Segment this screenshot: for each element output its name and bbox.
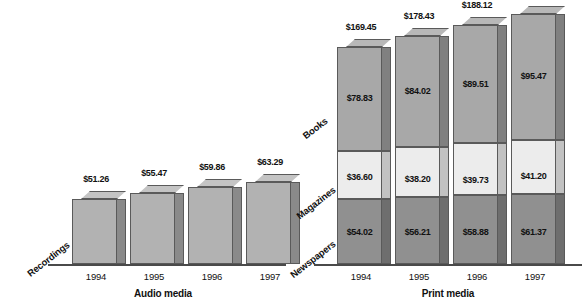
segment-value-newspapers-1996: $58.88: [453, 227, 498, 237]
bar-top-face: [346, 39, 391, 47]
bar-top-face: [520, 6, 565, 14]
series-label-recordings: Recordings: [17, 239, 71, 285]
bar-top-face: [197, 179, 242, 187]
tick-print-1995: 1995: [392, 271, 446, 282]
bar-value-label-1994: $51.26: [69, 174, 123, 184]
segment-value-books-1994: $78.83: [337, 93, 382, 103]
segment-value-magazines-1995: $38.20: [395, 174, 440, 184]
segment-magazines: [511, 140, 556, 194]
segment-magazines: [453, 143, 498, 195]
segment-side-books: [555, 14, 565, 140]
tick-audio-1996: 1996: [185, 271, 239, 282]
tick-print-1994: 1994: [334, 271, 388, 282]
segment-side-books: [381, 47, 391, 151]
audio-media-chart: Recordings $51.26 $55.47 $59.86 $63.29 1…: [0, 0, 300, 307]
bar-total-label-1995: $178.43: [392, 11, 446, 21]
segment-value-newspapers-1995: $56.21: [395, 227, 440, 237]
segment-side-books: [439, 36, 449, 147]
segment-side-newspapers: [555, 194, 565, 264]
segment-value-magazines-1994: $36.60: [337, 172, 382, 182]
bar-front-face: [188, 187, 233, 264]
segment-value-magazines-1996: $39.73: [453, 175, 498, 185]
segment-value-newspapers-1997: $61.37: [511, 227, 556, 237]
tick-audio-1994: 1994: [69, 271, 123, 282]
segment-side-newspapers: [439, 197, 449, 264]
bar-value-label-1996: $59.86: [185, 162, 239, 172]
bar-audio-1994: [72, 191, 126, 264]
bar-top-face: [404, 28, 449, 36]
segment-magazines: [395, 147, 440, 197]
segment-side-books: [497, 25, 507, 143]
series-label-books: Books: [283, 115, 329, 154]
segment-value-magazines-1997: $41.20: [511, 171, 556, 181]
segment-value-books-1995: $84.02: [395, 86, 440, 96]
bar-side-face: [232, 187, 242, 264]
bar-total-label-1996: $188.12: [450, 0, 504, 10]
segment-value-books-1996: $89.51: [453, 79, 498, 89]
bar-value-label-1995: $55.47: [127, 168, 181, 178]
tick-print-1996: 1996: [450, 271, 504, 282]
bar-print-1997: [511, 6, 565, 264]
segment-value-newspapers-1994: $54.02: [337, 227, 382, 237]
tick-audio-1995: 1995: [127, 271, 181, 282]
bar-top-face: [139, 185, 184, 193]
print-axis-title: Print media: [393, 288, 503, 299]
bar-front-face: [72, 199, 117, 264]
audio-axis-title: Audio media: [108, 288, 218, 299]
segment-value-books-1997: $95.47: [511, 71, 556, 81]
segment-side-newspapers: [381, 199, 391, 264]
bar-side-face: [174, 193, 184, 264]
bar-audio-1995: [130, 185, 184, 264]
segment-side-magazines: [555, 140, 565, 194]
bar-side-face: [116, 199, 126, 264]
bar-total-label-1994: $169.45: [334, 22, 388, 32]
series-label-magazines: Magazines: [274, 184, 338, 237]
bar-top-face: [81, 191, 126, 199]
segment-side-magazines: [381, 151, 391, 199]
bar-audio-1996: [188, 179, 242, 264]
audio-axis-line: [48, 264, 286, 266]
tick-print-1997: 1997: [508, 271, 562, 282]
print-axis-line: [314, 264, 582, 266]
bar-top-face: [462, 17, 507, 25]
segment-side-newspapers: [497, 195, 507, 264]
bar-front-face: [130, 193, 175, 264]
segment-side-magazines: [439, 147, 449, 197]
print-media-chart: Books Magazines Newspapers $169.45 $78.8…: [284, 0, 584, 307]
segment-side-magazines: [497, 143, 507, 195]
